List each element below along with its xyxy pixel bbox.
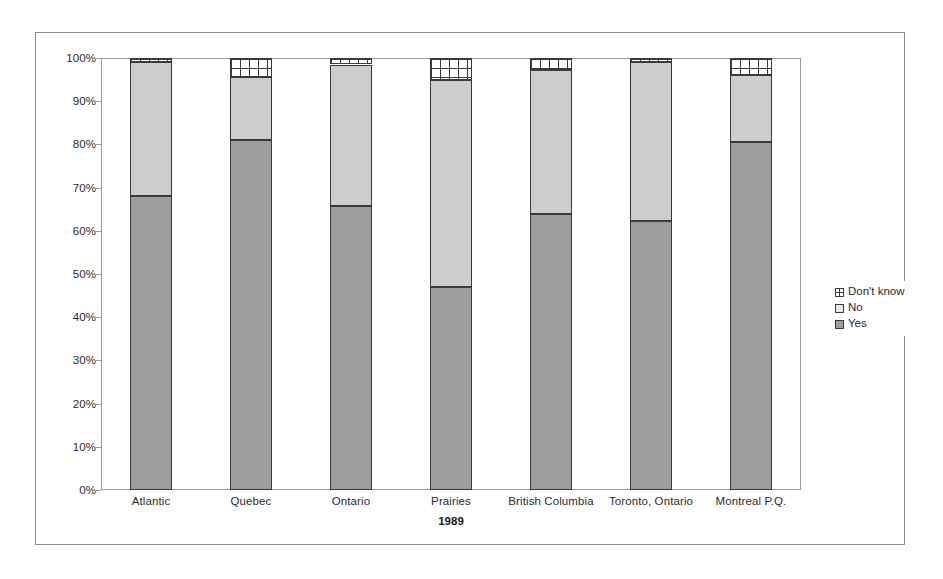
chart-legend: Don't know No Yes [831,281,911,336]
legend-label-dont-know: Don't know [848,286,905,298]
bar-segment-yes[interactable] [430,287,472,490]
legend-swatch-yes-icon [835,320,844,329]
y-axis-tick-label: 30% [73,354,96,366]
bar-group[interactable] [530,58,572,490]
legend-label-no: No [848,302,863,314]
y-axis-tick-label: 50% [73,268,96,280]
y-axis-tick-label: 90% [73,95,96,107]
legend-swatch-dont-know-icon [835,288,844,297]
bar-segment-no[interactable] [630,62,672,221]
x-axis-tick-label: Quebec [231,495,272,507]
x-axis: AtlanticQuebecOntarioPrairiesBritish Col… [101,495,801,515]
y-axis-tick-label: 60% [73,225,96,237]
bar-segment-dont-know[interactable] [730,58,772,75]
bar-segment-dont-know[interactable] [630,58,672,62]
legend-item-dont-know[interactable]: Don't know [835,284,905,300]
bar-segment-yes[interactable] [630,221,672,490]
bar-group[interactable] [430,58,472,490]
bar-segment-dont-know[interactable] [330,58,372,64]
x-axis-tick-label: Montreal P.Q. [716,495,787,507]
bars-layer [101,58,801,490]
bar-segment-yes[interactable] [730,142,772,490]
y-axis-tick-label: 20% [73,398,96,410]
y-axis-tick-mark [96,490,101,491]
y-axis: 100%90%80%70%60%50%40%30%20%10%0% [36,58,96,490]
bar-group[interactable] [330,58,372,490]
x-axis-tick-label: Toronto, Ontario [609,495,693,507]
bar-segment-dont-know[interactable] [530,58,572,70]
bar-segment-yes[interactable] [230,140,272,490]
bar-segment-yes[interactable] [530,214,572,490]
y-axis-tick-label: 100% [66,52,96,64]
bar-segment-dont-know[interactable] [430,58,472,80]
x-axis-title: 1989 [101,515,801,527]
bar-segment-no[interactable] [430,80,472,287]
bar-segment-no[interactable] [330,65,372,207]
bar-group[interactable] [730,58,772,490]
bar-group[interactable] [130,58,172,490]
bar-segment-no[interactable] [230,77,272,140]
y-axis-tick-label: 40% [73,311,96,323]
bar-segment-dont-know[interactable] [230,58,272,77]
y-axis-tick-label: 10% [73,441,96,453]
y-axis-tick-label: 70% [73,182,96,194]
y-axis-tick-label: 0% [79,484,96,496]
legend-item-no[interactable]: No [835,300,905,316]
legend-item-yes[interactable]: Yes [835,316,905,332]
bar-segment-yes[interactable] [130,196,172,490]
x-axis-tick-label: Atlantic [132,495,171,507]
bar-segment-no[interactable] [130,62,172,196]
bar-group[interactable] [230,58,272,490]
x-axis-tick-label: Prairies [431,495,471,507]
bar-group[interactable] [630,58,672,490]
x-axis-tick-label: British Columbia [508,495,593,507]
bar-segment-no[interactable] [530,70,572,214]
legend-swatch-no-icon [835,304,844,313]
chart-frame: 100%90%80%70%60%50%40%30%20%10%0% Atlant… [35,32,905,545]
bar-segment-yes[interactable] [330,206,372,490]
bar-segment-no[interactable] [730,75,772,142]
x-axis-tick-label: Ontario [332,495,370,507]
y-axis-tick-label: 80% [73,138,96,150]
bar-segment-dont-know[interactable] [130,58,172,62]
legend-label-yes: Yes [848,318,867,330]
